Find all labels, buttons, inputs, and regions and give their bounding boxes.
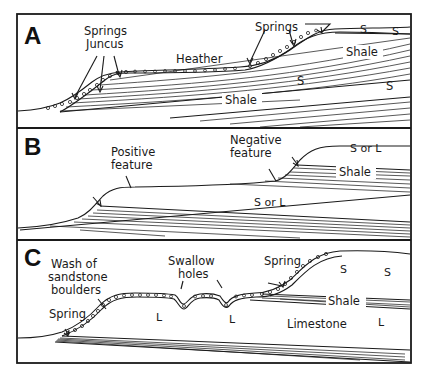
panel-a: A: [18, 20, 410, 127]
label-holes: holes: [178, 267, 209, 281]
label-negative-feature: feature: [230, 146, 272, 160]
label-c-limestone: Limestone: [287, 317, 347, 331]
label-sandstone: sandstone: [48, 270, 108, 284]
label-a-s-mid-2: S: [386, 79, 393, 93]
label-spring-left: Spring: [49, 307, 86, 321]
geology-cross-section-figure: A: [0, 0, 427, 374]
label-c-s-1: S: [340, 263, 347, 276]
label-c-l-3: L: [378, 316, 385, 329]
label-c-s-2: S: [384, 266, 391, 279]
label-c-shale: Shale: [328, 294, 360, 308]
panel-b-upper-shale-hatching: [230, 168, 410, 192]
panel-b: B: [18, 133, 410, 238]
label-a-s-top-1: S: [360, 23, 367, 36]
panel-c-lower-bed-hatching: [56, 338, 405, 360]
label-wash-of: Wash of: [51, 257, 98, 271]
label-juncus: Juncus: [85, 37, 124, 51]
label-b-s-or-l-lower: S or L: [254, 196, 286, 209]
label-c-l-1: L: [156, 311, 163, 324]
panel-a-label: A: [24, 22, 41, 49]
label-springs-a-right: Springs: [255, 20, 298, 34]
label-b-shale: Shale: [339, 165, 371, 179]
label-a-shale-lower: Shale: [225, 93, 257, 107]
label-springs-a-left: Springs: [84, 24, 127, 38]
label-spring-right: Spring: [264, 254, 301, 268]
label-positive-feature: feature: [111, 158, 153, 172]
figure-svg: A: [0, 0, 427, 374]
label-boulders: boulders: [51, 283, 101, 297]
label-a-s-mid-1: S: [297, 74, 304, 88]
label-a-s-top-2: S: [392, 25, 399, 38]
panel-c: C: [18, 244, 410, 362]
label-swallow: Swallow: [168, 254, 215, 268]
label-a-shale-upper: Shale: [346, 45, 378, 59]
panel-b-lower-shale-hatching: [50, 210, 410, 238]
label-positive: Positive: [111, 145, 155, 159]
panel-b-label: B: [24, 133, 41, 160]
label-heather: Heather: [176, 52, 223, 66]
label-negative: Negative: [230, 133, 282, 147]
label-b-s-or-l-upper: S or L: [350, 142, 382, 155]
panel-c-label: C: [24, 244, 41, 271]
label-c-l-2: L: [229, 313, 236, 326]
